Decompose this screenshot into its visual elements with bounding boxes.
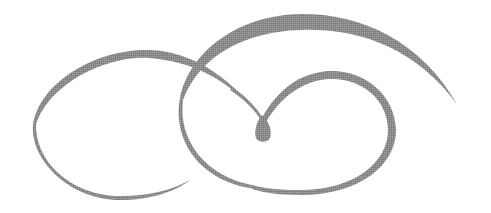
swirl-flourish-icon: [0, 0, 491, 213]
inner-right-loop-stroke: [250, 71, 396, 195]
teardrop-ornament: [255, 115, 270, 142]
left-loop-upper-stroke: [33, 50, 262, 125]
left-loop-lower-stroke: [33, 125, 190, 200]
swirl-graphic: [0, 0, 491, 213]
right-upper-arc-stroke: [180, 14, 457, 104]
v-left-stroke: [230, 87, 264, 122]
right-loop-left-stroke: [179, 98, 252, 188]
